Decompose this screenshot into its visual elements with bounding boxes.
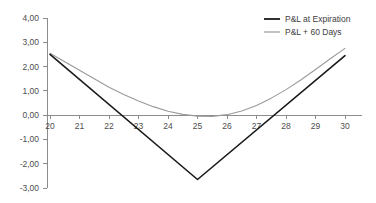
y-tick-label: 1,00 (22, 86, 39, 96)
pl-chart-figure: 4,003,002,001,000,00-1,00-2,00-3,00 2021… (0, 0, 376, 203)
y-tick-label: 2,00 (22, 62, 39, 72)
x-tick-label: 29 (311, 121, 321, 131)
x-tick-label: 20 (45, 121, 55, 131)
y-tick-label: -3,00 (20, 183, 40, 193)
y-axis-tick-labels: 4,003,002,001,000,00-1,00-2,00-3,00 (20, 13, 40, 193)
x-tick-label: 22 (104, 121, 114, 131)
data-series-group (50, 48, 345, 179)
chart-canvas: 4,003,002,001,000,00-1,00-2,00-3,00 2021… (0, 0, 376, 203)
chart-legend: P&L at ExpirationP&L + 60 Days (264, 14, 351, 37)
legend-label: P&L at Expiration (285, 14, 351, 24)
x-axis-tick-labels: 2021222324252627282930 (45, 121, 350, 131)
x-tick-label: 24 (163, 121, 173, 131)
legend-label: P&L + 60 Days (285, 27, 342, 37)
y-tick-label: -1,00 (20, 134, 40, 144)
y-tick-label: 4,00 (22, 13, 39, 23)
y-axis-ticks (43, 18, 47, 188)
y-tick-label: 0,00 (22, 110, 39, 120)
x-tick-label: 26 (222, 121, 232, 131)
y-axis-group: 4,003,002,001,000,00-1,00-2,00-3,00 (20, 13, 47, 193)
series-line-sixty-days (50, 48, 345, 116)
x-tick-label: 21 (75, 121, 85, 131)
x-tick-label: 25 (193, 121, 203, 131)
y-tick-label: 3,00 (22, 37, 39, 47)
x-tick-label: 28 (281, 121, 291, 131)
y-tick-label: -2,00 (20, 159, 40, 169)
x-axis-group: 2021222324252627282930 (45, 115, 362, 131)
x-tick-label: 30 (340, 121, 350, 131)
